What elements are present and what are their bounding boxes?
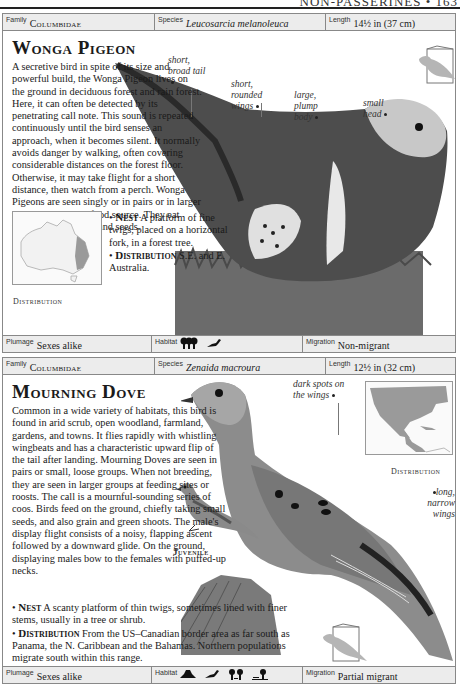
entry-title: Mourning Dove — [12, 381, 146, 403]
family-value: Columbidae — [30, 362, 82, 373]
annotation-dot — [256, 105, 259, 108]
migration-label: Migration — [306, 338, 335, 345]
species-cell: Species Zenaida macroura — [155, 358, 326, 374]
annotation-head: small head — [363, 98, 401, 120]
plumage-label: Plumage — [6, 338, 34, 345]
migration-label: Migration — [306, 669, 335, 676]
family-cell: Family Columbidae — [3, 14, 155, 30]
family-label: Family — [6, 360, 27, 367]
habitat-cell: Habitat — [152, 336, 303, 352]
entry-details: • Nest A scanty platform of thin twigs, … — [12, 601, 302, 664]
plumage-value: Sexes alike — [37, 340, 82, 351]
field-guide-bird-icon — [415, 45, 457, 87]
forest-icon — [180, 337, 198, 349]
plumage-cell: Plumage Sexes alike — [3, 667, 152, 683]
length-value: 14½ in (37 cm) — [353, 18, 415, 29]
migration-cell: Migration Non-migrant — [303, 336, 455, 352]
wonga-info-bar: Family Columbidae Species Leucosarcia me… — [2, 13, 456, 31]
mourning-dove-entry: Mourning Dove Juvenile Distribution dark… — [2, 375, 456, 666]
annotation-dot — [315, 116, 318, 119]
farmland-icon — [252, 668, 268, 680]
species-value: Leucosarcia melanoleuca — [186, 18, 289, 29]
wonga-footer-bar: Plumage Sexes alike Habitat Migration No… — [2, 335, 456, 353]
leader-line — [338, 403, 339, 435]
leader-line — [261, 103, 262, 117]
woodland-icon — [228, 668, 244, 680]
distribution-heading: Distribution — [115, 249, 176, 261]
migration-value: Non-migrant — [338, 340, 390, 351]
australia-map-icon — [13, 212, 101, 284]
annotation-dot — [384, 113, 387, 116]
family-value: Columbidae — [30, 18, 82, 29]
length-cell: Length 12½ in (32 cm) — [326, 358, 455, 374]
species-value: Zenaida macroura — [186, 362, 260, 373]
wonga-entry: Wonga Pigeon short, broad tail short, ro… — [2, 31, 456, 335]
distribution-heading: Distribution — [18, 627, 79, 639]
length-cell: Length 14½ in (37 cm) — [326, 14, 455, 30]
nest-text: A scanty platform of thin twigs, sometim… — [12, 602, 287, 625]
perching-bird-icon — [206, 337, 222, 349]
habitat-label: Habitat — [155, 669, 177, 676]
distribution-map — [12, 211, 102, 285]
scrub-icon — [180, 668, 196, 678]
plumage-value: Sexes alike — [37, 671, 82, 682]
distribution-map-label: Distribution — [391, 467, 440, 476]
annotation-dot — [332, 394, 335, 397]
migration-value: Partial migrant — [338, 671, 398, 682]
species-cell: Species Leucosarcia melanoleuca — [155, 14, 326, 30]
plumage-cell: Plumage Sexes alike — [3, 336, 152, 352]
perching-bird-icon — [204, 668, 220, 680]
family-cell: Family Columbidae — [3, 358, 155, 374]
nest-heading: Nest — [115, 211, 138, 223]
length-label: Length — [329, 360, 350, 367]
habitat-label: Habitat — [155, 338, 177, 345]
length-value: 12½ in (32 cm) — [353, 362, 415, 373]
habitat-cell: Habitat — [152, 667, 303, 683]
annotation-dark-spots: dark spots on the wings — [293, 379, 353, 401]
migration-cell: Migration Partial migrant — [303, 667, 455, 683]
entry-description: A secretive bird in spite of its size an… — [12, 61, 202, 233]
entry-description-continued: • Nest A platform of fine twigs, placed … — [109, 211, 229, 274]
species-label: Species — [158, 16, 183, 23]
annotation-long-wings: long, narrow wings — [413, 487, 455, 520]
nest-heading: Nest — [18, 601, 41, 613]
distribution-map — [365, 381, 453, 455]
distribution-map-label: Distribution — [13, 297, 62, 306]
mourning-dove-footer-bar: Plumage Sexes alike Habitat Migration Pa… — [2, 666, 456, 684]
species-label: Species — [158, 360, 183, 367]
mourning-dove-info-bar: Family Columbidae Species Zenaida macrou… — [2, 357, 456, 375]
length-label: Length — [329, 16, 350, 23]
top-rule — [0, 7, 460, 9]
entry-description: Common in a wide variety of habitats, th… — [12, 405, 226, 577]
plumage-label: Plumage — [6, 669, 34, 676]
north-america-map-icon — [366, 382, 452, 454]
family-label: Family — [6, 16, 27, 23]
annotation-wings: short, rounded wings — [231, 79, 273, 112]
field-guide-bird-icon — [321, 621, 369, 663]
annotation-body: large, plump body — [294, 90, 330, 123]
